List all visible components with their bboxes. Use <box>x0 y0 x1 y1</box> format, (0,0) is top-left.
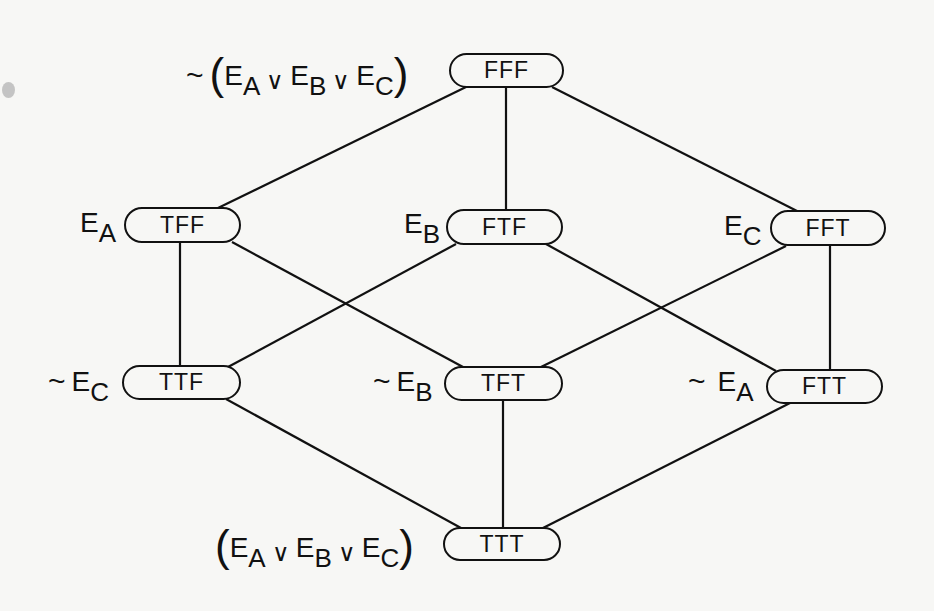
or-symbol: ∨ <box>272 539 290 566</box>
node-ttf: TTF <box>122 365 241 400</box>
edge-ftf-ttf <box>228 244 456 367</box>
event-letter: E <box>224 60 243 91</box>
right-paren: ) <box>394 49 409 98</box>
label-event-c: EC <box>724 212 761 240</box>
subscript-b: B <box>314 543 331 573</box>
subscript-c: C <box>380 543 399 573</box>
label-any-event: (EA∨EB∨EC) <box>215 520 414 564</box>
subscript-a: A <box>99 218 116 248</box>
node-ftf: FTF <box>446 209 563 245</box>
subscript-a: A <box>243 71 260 101</box>
event-letter: E <box>356 60 375 91</box>
edge-ftt-ttt <box>543 403 790 528</box>
subscript-b: B <box>423 219 440 249</box>
event-letter: E <box>404 208 423 239</box>
edge-fff-fft <box>552 87 797 211</box>
event-letter: E <box>290 60 309 91</box>
or-symbol: ∨ <box>266 67 284 94</box>
event-letter: E <box>80 207 99 238</box>
tilde-symbol: ~ <box>48 364 66 397</box>
tilde-symbol: ~ <box>373 364 391 397</box>
edge-fft-tft <box>541 246 786 367</box>
event-letter: E <box>230 532 249 563</box>
edge-ttf-ttt <box>226 399 461 528</box>
event-letter: E <box>397 366 416 397</box>
tilde-symbol: ~ <box>688 364 706 397</box>
edge-tff-tft <box>232 242 463 367</box>
node-fft: FFT <box>770 210 886 246</box>
label-not-event-a: ~EA <box>688 366 754 396</box>
event-letter: E <box>72 366 91 397</box>
event-letter: E <box>718 366 737 397</box>
edge-fff-tff <box>218 87 466 208</box>
event-letter: E <box>362 532 381 563</box>
left-paren: ( <box>210 49 225 98</box>
node-ftt: FTT <box>766 369 883 404</box>
node-tft: TFT <box>444 366 563 401</box>
node-tff: TFF <box>124 207 241 243</box>
event-letter: E <box>296 532 315 563</box>
tilde-symbol: ~ <box>186 58 204 91</box>
node-fff: FFF <box>449 53 564 88</box>
event-letter: E <box>724 210 743 241</box>
right-paren: ) <box>399 521 414 570</box>
subscript-c: C <box>743 221 762 251</box>
label-not-event-c: ~EC <box>48 366 109 396</box>
subscript-a: A <box>736 377 753 407</box>
or-symbol: ∨ <box>338 539 356 566</box>
or-symbol: ∨ <box>332 67 350 94</box>
subscript-a: A <box>248 543 265 573</box>
label-event-b: EB <box>404 210 440 238</box>
subscript-c: C <box>90 377 109 407</box>
subscript-b: B <box>309 71 326 101</box>
subscript-b: B <box>415 377 432 407</box>
node-ttt: TTT <box>443 527 561 561</box>
label-not-event-b: ~EB <box>373 366 433 396</box>
subscript-c: C <box>375 71 394 101</box>
lattice-edges <box>0 0 934 611</box>
left-paren: ( <box>215 521 230 570</box>
label-not-any-event: ~(EA∨EB∨EC) <box>186 48 408 92</box>
label-event-a: EA <box>80 209 116 237</box>
